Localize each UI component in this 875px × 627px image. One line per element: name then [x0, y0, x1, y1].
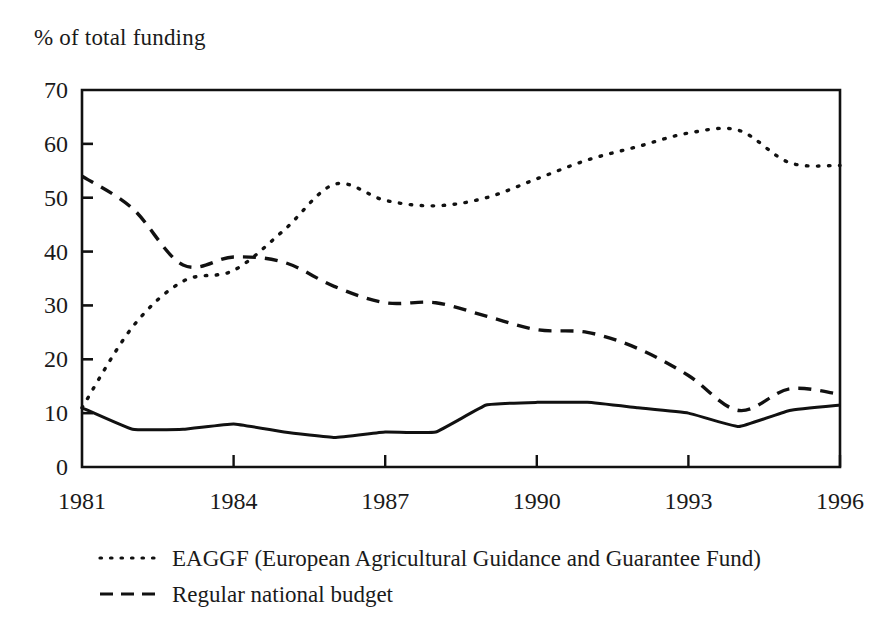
x-tick-label: 1996 — [780, 489, 875, 513]
y-tick-label: 0 — [22, 455, 68, 479]
y-tick-label: 60 — [22, 132, 68, 156]
plot-area — [0, 0, 875, 627]
x-tick-label: 1987 — [325, 489, 445, 513]
legend-item: Regular national budget — [98, 576, 868, 612]
series-line-dotted — [82, 128, 840, 407]
y-tick-label: 40 — [22, 240, 68, 264]
chart-figure: % of total funding 010203040506070 19811… — [0, 0, 875, 627]
chart-legend: EAGGF (European Agricultural Guidance an… — [98, 540, 868, 612]
legend-label-eaggf: EAGGF (European Agricultural Guidance an… — [172, 547, 761, 570]
x-tick-label: 1990 — [477, 489, 597, 513]
y-tick-label: 30 — [22, 293, 68, 317]
axes-frame — [82, 90, 840, 467]
x-tick-label: 1984 — [174, 489, 294, 513]
y-tick-label: 50 — [22, 186, 68, 210]
series-line-dashed — [82, 176, 840, 410]
y-tick-label: 10 — [22, 401, 68, 425]
x-tick-label: 1993 — [628, 489, 748, 513]
legend-swatch-dashed — [98, 584, 164, 604]
x-tick-label: 1981 — [22, 489, 142, 513]
legend-swatch-dotted — [98, 548, 164, 568]
y-tick-label: 20 — [22, 347, 68, 371]
y-tick-label: 70 — [22, 78, 68, 102]
legend-item: EAGGF (European Agricultural Guidance an… — [98, 540, 868, 576]
data-series-group — [82, 128, 840, 437]
series-line-solid — [82, 402, 840, 437]
legend-label-regular-national-budget: Regular national budget — [172, 583, 393, 606]
